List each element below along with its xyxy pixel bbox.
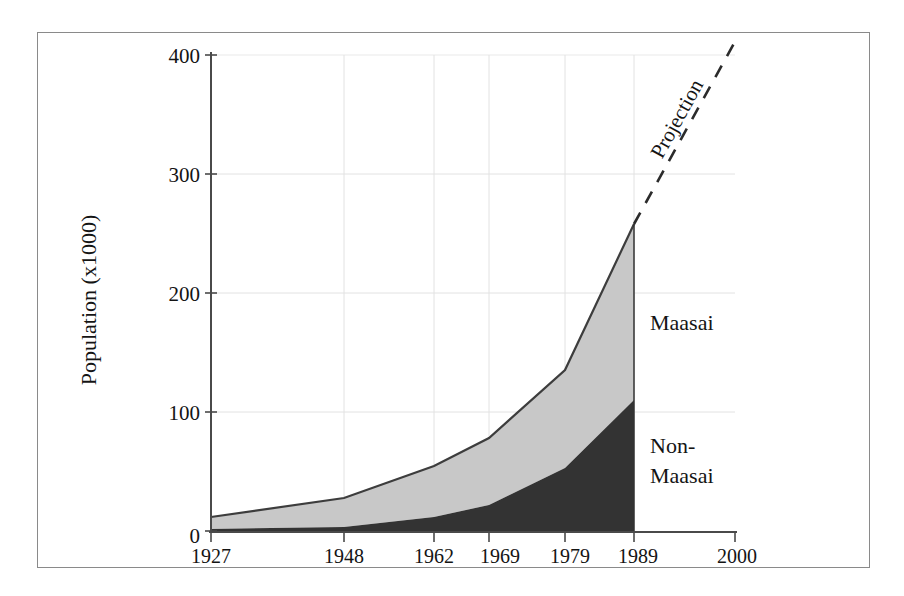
y-gridlines xyxy=(211,55,735,412)
x-tick-label-1948: 1948 xyxy=(324,545,364,567)
population-area-chart: 400 300 200 100 0 1927 1948 1962 1969 19… xyxy=(0,0,904,596)
y-tick-label-400: 400 xyxy=(169,44,201,68)
chart-container: 400 300 200 100 0 1927 1948 1962 1969 19… xyxy=(0,0,904,596)
x-tick-label-1989: 1989 xyxy=(618,545,658,567)
projection-label: Projection xyxy=(645,75,708,163)
series-label-non-maasai-line1: Non- xyxy=(650,433,695,458)
series-label-non-maasai-line2: Maasai xyxy=(650,463,714,488)
x-tick-label-1927: 1927 xyxy=(191,545,231,567)
series-label-maasai: Maasai xyxy=(650,310,714,335)
x-tick-label-1962: 1962 xyxy=(414,545,454,567)
y-tick-label-100: 100 xyxy=(169,401,201,425)
y-tick-label-200: 200 xyxy=(169,282,201,306)
x-tick-label-1979: 1979 xyxy=(550,545,590,567)
y-axis-title: Population (x1000) xyxy=(76,215,101,386)
x-tick-label-1969: 1969 xyxy=(480,545,520,567)
y-tick-label-300: 300 xyxy=(169,163,201,187)
x-tick-marks xyxy=(211,532,735,542)
x-tick-label-2000: 2000 xyxy=(717,545,757,567)
projection-line xyxy=(634,38,737,224)
